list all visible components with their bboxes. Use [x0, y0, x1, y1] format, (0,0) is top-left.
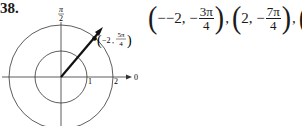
tick-label-1: 1 [88, 77, 92, 86]
answer-pair-3: ( 2, π4 ) [299, 4, 302, 32]
answer-pair-2: ( 2, − 7π4 ) [232, 4, 291, 32]
svg-text:,: , [112, 36, 114, 45]
point-label-theta-den: 4 [119, 40, 123, 48]
tick-label-2: 2 [114, 77, 118, 86]
answer-list: ( −−2, − 3π4 ) , ( 2, − 7π4 ) , ( 2, π4 … [148, 4, 302, 32]
polar-diagram: π 2 1 2 0 ( −2 , 5π 4 ) [0, 0, 150, 126]
label-pi-over-2-den: 2 [59, 14, 63, 23]
svg-text:): ) [127, 33, 132, 49]
point-label-theta-num: 5π [117, 31, 125, 39]
label-pi-over-2-num: π [59, 5, 64, 14]
point-label-r: −2 [102, 36, 111, 45]
polar-axis-arrow-icon [126, 75, 132, 80]
answer-pair-1: ( −−2, − 3π4 ) [148, 4, 224, 32]
label-zero: 0 [134, 73, 138, 82]
